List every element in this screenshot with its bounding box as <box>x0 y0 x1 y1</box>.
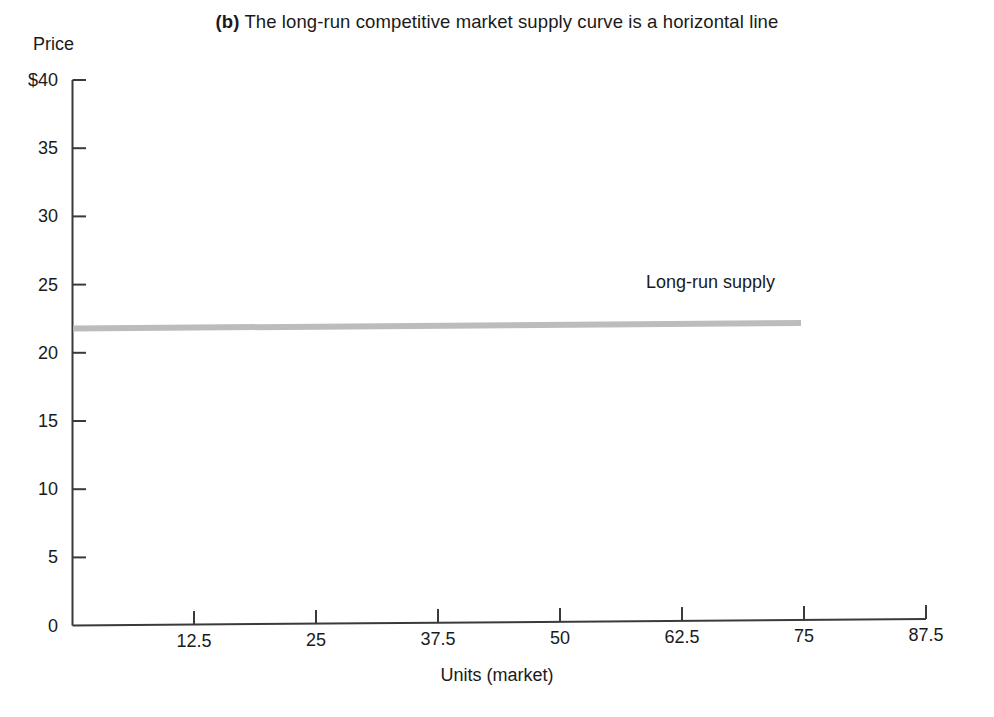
chart-figure: (b) The long-run competitive market supp… <box>0 0 994 717</box>
y-tick-label-25: 25 <box>38 275 58 295</box>
x-tick-label-75: 75 <box>794 626 814 646</box>
x-tick-label-50: 50 <box>550 628 570 648</box>
y-tick-label-30: 30 <box>38 206 58 226</box>
x-axis-ticks <box>194 605 926 625</box>
series-label-long-run-supply: Long-run supply <box>646 271 775 293</box>
x-tick-label-87-5: 87.5 <box>908 625 943 645</box>
y-tick-label-0: 0 <box>48 616 58 636</box>
y-tick-label-15: 15 <box>38 411 58 431</box>
x-tick-label-37-5: 37.5 <box>420 629 455 649</box>
x-axis-title: Units (market) <box>0 664 994 686</box>
y-tick-label-40: $40 <box>28 70 58 90</box>
x-tick-label-25: 25 <box>306 630 326 650</box>
x-tick-label-62-5: 62.5 <box>664 627 699 647</box>
long-run-supply-line <box>73 323 801 329</box>
x-tick-label-12-5: 12.5 <box>176 631 211 651</box>
y-axis-ticks <box>73 80 87 557</box>
y-tick-label-35: 35 <box>38 138 58 158</box>
plot-area <box>0 0 994 717</box>
y-tick-label-20: 20 <box>38 343 58 363</box>
y-tick-label-5: 5 <box>48 547 58 567</box>
y-tick-label-10: 10 <box>38 479 58 499</box>
x-axis-spine <box>73 619 927 626</box>
